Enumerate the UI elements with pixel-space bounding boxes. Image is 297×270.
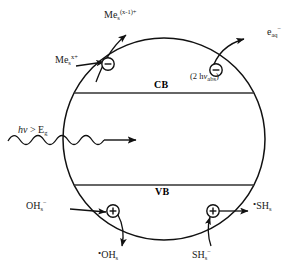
figure-canvas: Mes(x-1)+ Mesx+ eaq− (2 hνabs) CB VB hν … — [0, 0, 297, 270]
label-sh-radical: •SHs — [253, 200, 271, 213]
label-conduction-band: CB — [154, 79, 169, 90]
semiconductor-particle-circle — [63, 38, 265, 240]
label-sh-reactant: SHs− — [192, 249, 211, 262]
label-photon-energy: hν > Eg — [18, 125, 47, 137]
label-me-product: Mes(x-1)+ — [104, 9, 137, 22]
label-e-aq: eaq− — [267, 26, 281, 39]
label-me-reactant: Mesx+ — [55, 54, 78, 67]
label-oh-reactant: OHs− — [26, 200, 47, 213]
label-two-photon-absorption: (2 hνabs) — [190, 72, 219, 83]
label-valence-band: VB — [155, 186, 170, 197]
label-oh-radical: •OHs — [98, 249, 118, 262]
